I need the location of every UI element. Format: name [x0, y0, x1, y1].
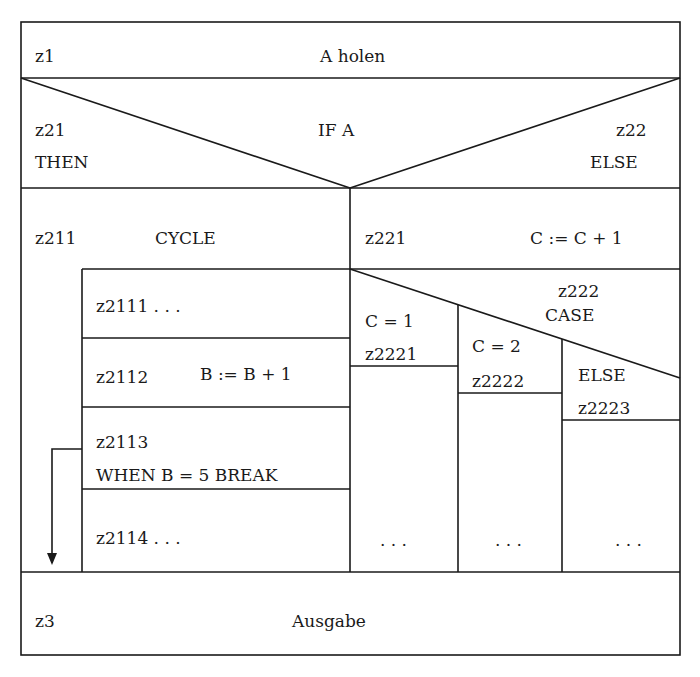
cycle-body-z2112-text: B := B + 1 [200, 364, 292, 384]
case-branch-2-body: . . . [495, 530, 522, 550]
case-branch-1-cond: C = 1 [365, 311, 414, 331]
cycle-body-z2114: z2114 . . . [96, 528, 181, 548]
cycle-label: CYCLE [155, 228, 216, 248]
else-label: ELSE [590, 152, 638, 172]
case-branch-1-body: . . . [380, 530, 407, 550]
structogram-lines [0, 0, 700, 677]
case-branch-3-id: z2223 [578, 398, 630, 418]
case-branch-2-id: z2222 [472, 371, 524, 391]
block-id-z221: z221 [365, 228, 406, 248]
case-id: z222 [558, 281, 599, 301]
cycle-body-z2111: z2111 . . . [96, 296, 181, 316]
cycle-body-z2112-id: z2112 [96, 367, 148, 387]
cycle-id: z211 [35, 228, 76, 248]
case-label: CASE [545, 305, 594, 325]
block-text-z221: C := C + 1 [530, 228, 623, 248]
case-branch-3-body: . . . [615, 530, 642, 550]
case-branch-3-cond: ELSE [578, 365, 626, 385]
block-id-z3: z3 [35, 611, 55, 631]
case-branch-2-cond: C = 2 [472, 336, 521, 356]
then-label: THEN [35, 152, 88, 172]
arrow-head-icon [47, 553, 57, 565]
block-text-z3: Ausgabe [292, 611, 366, 631]
then-id: z21 [35, 120, 66, 140]
break-arrow [52, 449, 82, 563]
if-condition: IF A [318, 120, 354, 140]
block-id-z1: z1 [35, 46, 55, 66]
cycle-body-z2113-text: WHEN B = 5 BREAK [96, 465, 277, 485]
else-id: z22 [616, 120, 647, 140]
block-text-z1: A holen [320, 46, 385, 66]
cycle-body-z2113-id: z2113 [96, 432, 148, 452]
case-branch-1-id: z2221 [365, 344, 417, 364]
